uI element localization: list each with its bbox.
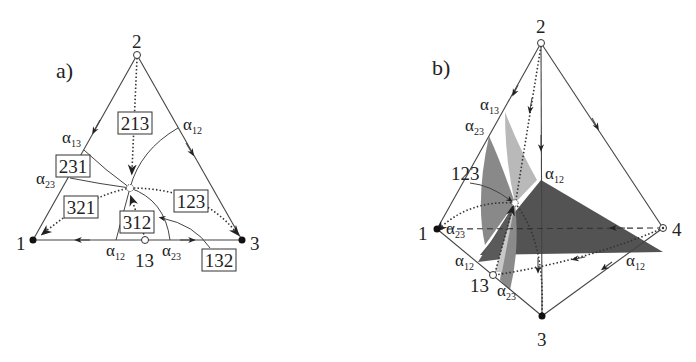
vertex-2-label: 2: [536, 16, 546, 37]
alpha-12-top: α12: [183, 115, 202, 136]
vertex-13-label: 13: [470, 275, 489, 296]
alpha-23-top: α23: [465, 116, 484, 137]
svg-text:213: 213: [121, 113, 150, 134]
panel-b-label: b): [432, 55, 450, 80]
arrow-icon: [604, 262, 612, 268]
vertex-4-label: 4: [672, 219, 682, 240]
curve-a23-left: [70, 178, 130, 188]
vertex-1-label: 1: [418, 223, 428, 244]
vertex-1-label: 1: [16, 233, 26, 254]
vertex-13-node: [142, 237, 149, 244]
alpha-12-right: α12: [626, 251, 645, 272]
center-node: [512, 200, 518, 206]
vertex-2-node: [538, 40, 545, 47]
curve-a12-top: [130, 128, 178, 188]
arrow-icon: [94, 120, 100, 131]
vertex-13-node: [490, 272, 497, 279]
svg-text:132: 132: [205, 250, 234, 271]
vertex-4-dot: [662, 227, 664, 229]
alpha-12-mid: α12: [545, 164, 564, 185]
alpha-12-left: α12: [455, 251, 474, 272]
center-node: [127, 185, 134, 192]
arrow-icon: [575, 257, 585, 259]
arrow-icon: [514, 85, 518, 93]
vertex-2-node: [134, 52, 141, 59]
vertex-13-label: 13: [135, 250, 154, 271]
tag-123: 123: [451, 163, 480, 184]
alpha-13: α13: [480, 95, 499, 116]
alpha-12-bottom: α12: [106, 241, 125, 262]
box-123: 123: [174, 190, 208, 212]
panel-b: b) α13 α23 α12 α23 α: [418, 16, 682, 350]
alpha-23-left: α23: [36, 169, 55, 190]
box-231: 231: [56, 155, 90, 177]
box-213: 213: [118, 112, 152, 134]
box-312: 312: [120, 211, 154, 233]
vertex-3-label: 3: [537, 329, 547, 350]
vertex-2-label: 2: [132, 31, 142, 52]
panel-a-label: a): [56, 58, 73, 83]
svg-text:321: 321: [67, 197, 96, 218]
panel-a: a) 213 231 321: [16, 31, 260, 271]
box-132: 132: [202, 249, 236, 271]
edge-4-1-hidden: [437, 228, 663, 229]
svg-text:231: 231: [59, 156, 88, 177]
alpha-13: α13: [62, 128, 81, 149]
box-321: 321: [64, 196, 98, 218]
arrow-icon: [592, 118, 597, 127]
alpha-23-bottom: α23: [162, 241, 181, 262]
figure: a) 213 231 321: [0, 0, 696, 362]
vertex-3-label: 3: [250, 233, 260, 254]
vertex-3-node: [239, 237, 246, 244]
vertex-1-node: [434, 226, 441, 233]
svg-text:123: 123: [177, 191, 206, 212]
arrow-icon: [186, 143, 192, 153]
svg-text:312: 312: [123, 212, 152, 233]
alpha-23-left: α23: [446, 219, 465, 240]
vertex-3-node: [539, 313, 546, 320]
vertex-1-node: [30, 237, 37, 244]
